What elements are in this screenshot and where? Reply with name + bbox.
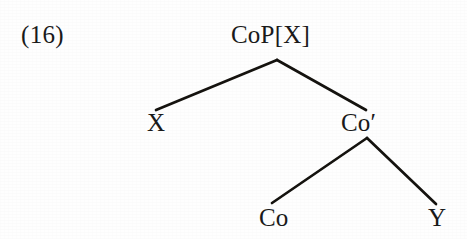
- tree-node-complement-y: Y: [428, 205, 446, 230]
- syntax-tree-figure: (16) CoP[X] X Co′ Co Y: [0, 0, 467, 239]
- tree-node-root: CoP[X]: [231, 22, 310, 47]
- branch-cobar-to-y: [367, 138, 436, 204]
- tree-node-specifier-x: X: [147, 110, 165, 135]
- tree-node-co-bar: Co′: [341, 110, 376, 135]
- branch-cobar-to-co: [272, 138, 367, 203]
- branch-root-to-cobar: [277, 60, 366, 110]
- branch-root-to-x: [156, 60, 277, 110]
- tree-node-head-co: Co: [259, 205, 289, 230]
